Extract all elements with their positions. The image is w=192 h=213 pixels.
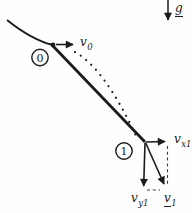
vx1-label: vx1 xyxy=(174,133,191,148)
g-label: g xyxy=(175,2,183,14)
vx1-label-base: v xyxy=(174,132,181,146)
physics-diagram: 0 1 g v0 vx1 vy1 v1 xyxy=(0,0,192,213)
v0-label: v0 xyxy=(80,36,93,51)
g-label-base: g xyxy=(175,1,183,17)
incline-line xyxy=(53,46,146,143)
v1-label-sub: 1 xyxy=(171,198,176,208)
v1-label-base: v xyxy=(164,191,171,207)
approach-curve xyxy=(7,20,53,45)
v0-label-sub: 0 xyxy=(87,42,92,52)
point0-label: 0 xyxy=(37,52,44,65)
vy1-label-base: v xyxy=(131,191,138,205)
v1-label: v1 xyxy=(164,192,177,207)
vx1-arrow xyxy=(146,142,165,143)
vy1-label-sub: y1 xyxy=(138,198,148,208)
v1-arrow xyxy=(146,143,165,185)
vy1-arrow xyxy=(144,143,145,186)
vy1-label: vy1 xyxy=(131,192,149,207)
v0-label-base: v xyxy=(80,35,87,49)
vx1-label-sub: x1 xyxy=(181,139,191,149)
diagram-geometry: 0 1 xyxy=(0,0,192,213)
point1-label: 1 xyxy=(121,145,128,158)
